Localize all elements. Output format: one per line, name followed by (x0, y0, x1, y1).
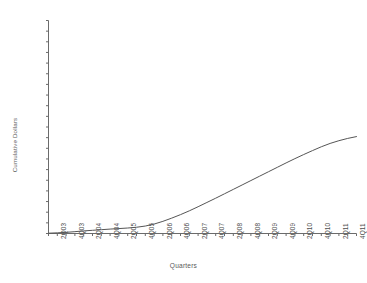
x-axis-title: Quarters (0, 262, 367, 269)
axis-lines (49, 21, 357, 234)
plot-area (0, 0, 367, 283)
y-axis-ticks (46, 21, 49, 234)
series-line-cumulative-dollars (49, 137, 357, 234)
chart-container: Cumulative Dollars 70.0066.5063.0059.505… (0, 0, 367, 283)
